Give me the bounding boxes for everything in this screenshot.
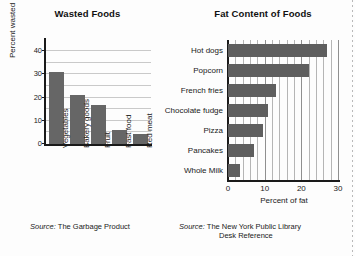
x-category-label: Fast food: [124, 115, 133, 148]
x-tick-label: 10: [257, 184, 273, 193]
x-tick-label: 0: [220, 184, 236, 193]
y-category-label: French fries: [181, 84, 223, 97]
source-note-wasted: Source: The Garbage Product: [30, 222, 130, 231]
x-tick-label: 30: [330, 184, 346, 193]
y-category-label: Whole Milk: [184, 164, 223, 177]
y-category-label: Chocolate fudge: [165, 104, 223, 117]
fat-content-chart: Fat Content of Foods Hot dogsPopcornFren…: [175, 0, 355, 256]
x-axis-label-fat: Percent of fat: [228, 196, 340, 205]
y-tick-label: 10: [24, 117, 42, 125]
wasted-foods-chart: Wasted Foods Percent wasted 010203040 Ve…: [0, 0, 175, 256]
x-category-label: Red meat: [145, 113, 154, 148]
bar-whole-milk: [228, 164, 240, 177]
figure-page: Wasted Foods Percent wasted 010203040 Ve…: [0, 0, 355, 256]
y-category-label: Pizza: [203, 124, 223, 137]
bar-french-fries: [228, 84, 276, 97]
y-tick-label: 40: [24, 47, 42, 55]
source-text-wasted: The Garbage Product: [58, 222, 130, 231]
source-prefix-wasted: Source:: [30, 222, 56, 231]
x-axis-line: [227, 180, 340, 182]
chart-title-wasted-foods: Wasted Foods: [0, 8, 175, 19]
bar-hot-dogs: [228, 44, 327, 57]
y-tick-mark: [42, 97, 46, 98]
bar-popcorn: [228, 64, 309, 77]
plot-area-fat-content: Hot dogsPopcornFrench friesChocolate fud…: [228, 40, 338, 180]
y-tick-mark: [42, 120, 46, 121]
bar-pancakes: [228, 144, 254, 157]
y-category-label: Popcorn: [193, 64, 223, 77]
x-tick-label: 20: [293, 184, 309, 193]
x-category-label: Fruit: [103, 132, 112, 148]
y-tick-mark: [42, 143, 46, 144]
bar-chocolate-fudge: [228, 104, 268, 117]
y-category-label: Pancakes: [188, 144, 223, 157]
source-text-fat-line1: The New York Public Library: [207, 222, 301, 231]
x-category-label: Vegetables: [61, 108, 70, 148]
y-tick-mark: [42, 50, 46, 51]
x-category-label: Bakery goods: [82, 99, 91, 148]
source-text-fat-line2: Desk Reference: [219, 231, 301, 240]
bars-fat-content: Hot dogsPopcornFrench friesChocolate fud…: [228, 40, 338, 180]
y-tick-label: 20: [24, 94, 42, 102]
source-note-fat: Source: The New York Public Library Desk…: [179, 222, 301, 240]
y-tick-label: 0: [24, 140, 42, 148]
gridline: [338, 40, 339, 180]
y-category-label: Hot dogs: [191, 44, 223, 57]
y-axis-label-wasted: Percent wasted: [8, 3, 17, 58]
y-tick-label: 30: [24, 70, 42, 78]
chart-title-fat-content: Fat Content of Foods: [183, 8, 343, 19]
bar-pizza: [228, 124, 263, 137]
y-tick-mark: [42, 73, 46, 74]
source-prefix-fat: Source:: [179, 222, 205, 231]
